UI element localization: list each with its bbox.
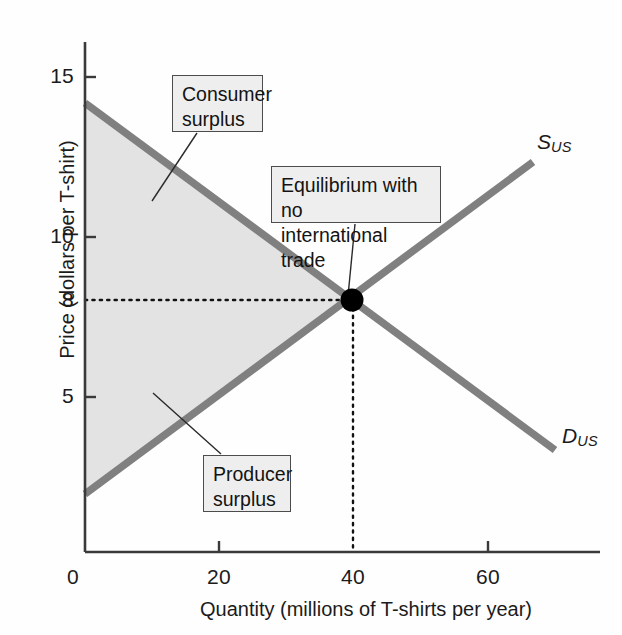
equilibrium-callout: Equilibrium with no international trade <box>271 166 441 223</box>
x-tick-label-0: 0 <box>53 565 93 589</box>
consumer-surplus-callout: Consumer surplus <box>172 75 263 132</box>
supply-curve-letter: S <box>537 130 551 153</box>
economics-figure: 15 10 8 5 0 20 40 60 Price (dollars per … <box>0 0 622 635</box>
x-axis-title: Quantity (millions of T-shirts per year) <box>200 598 600 621</box>
demand-curve-label: DUS <box>562 424 598 449</box>
y-axis-title: Price (dollars per T-shirt) <box>56 120 79 380</box>
supply-curve-label: SUS <box>537 130 572 155</box>
x-tick-label-40: 40 <box>333 565 373 589</box>
producer-surplus-callout: Producer surplus <box>203 455 291 512</box>
x-tick-label-20: 20 <box>199 565 239 589</box>
equilibrium-point-marker <box>341 289 364 312</box>
plot-area <box>0 0 622 635</box>
y-tick-label-5: 5 <box>32 384 74 408</box>
demand-curve-letter: D <box>562 424 577 447</box>
x-tick-label-60: 60 <box>468 565 508 589</box>
supply-curve-subscript: US <box>551 139 572 155</box>
demand-curve-subscript: US <box>577 433 598 449</box>
y-tick-label-15: 15 <box>32 64 74 88</box>
